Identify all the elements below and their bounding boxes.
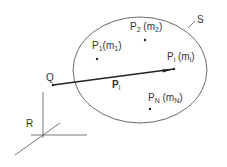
diagram-canvas: S Q P1(m1) P2 (m2) Pi (mi) PN (mN) Pi R bbox=[0, 0, 227, 167]
point-pi-label: Pi (mi) bbox=[167, 51, 195, 63]
region-s-leader bbox=[188, 21, 195, 28]
point-pn-label: PN (mN) bbox=[148, 92, 183, 104]
reference-frame-label: R bbox=[26, 118, 33, 129]
point-q-dot bbox=[52, 84, 54, 86]
point-p2-label: P2 (m2) bbox=[130, 21, 162, 33]
vector-arrowhead-icon bbox=[162, 69, 174, 73]
point-pn-dot bbox=[149, 108, 151, 110]
position-vector-label: Pi bbox=[112, 79, 121, 91]
point-p1-dot bbox=[96, 58, 98, 60]
region-s-label: S bbox=[197, 14, 204, 25]
point-pi-dot bbox=[173, 68, 175, 70]
point-p1-label: P1(m1) bbox=[92, 40, 122, 52]
point-p2-dot bbox=[144, 39, 146, 41]
point-q-label: Q bbox=[46, 72, 54, 83]
axis-diagonal bbox=[15, 123, 60, 155]
